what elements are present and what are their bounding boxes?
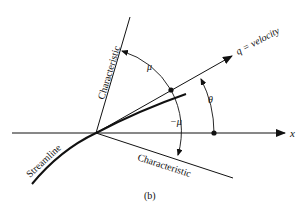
characteristic-upper-label: Characteristic: [95, 44, 122, 101]
theta-arc: [201, 79, 214, 133]
characteristic-lower-line: [96, 133, 233, 178]
minus-mu-label: −μ: [170, 116, 182, 127]
velocity-dot: [168, 87, 173, 92]
streamline-label: Streamline: [24, 141, 64, 179]
figure-caption: (b): [144, 190, 156, 202]
diagram: Characteristic Characteristic Streamline…: [0, 0, 308, 214]
theta-label: θ: [208, 94, 213, 105]
x-axis-label: x: [289, 127, 295, 139]
velocity-label: q = velocity: [234, 24, 282, 56]
x-axis-dot: [211, 130, 216, 135]
mu-label: μ: [146, 61, 152, 72]
